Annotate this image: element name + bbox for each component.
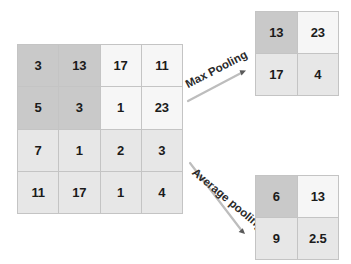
input-feature-map-cell: 17 (59, 172, 99, 213)
max-pool-output-cell: 13 (256, 12, 297, 53)
max-pool-output-cell: 23 (298, 12, 339, 53)
input-feature-map-cell: 23 (142, 87, 182, 128)
input-feature-map-cell: 4 (142, 172, 182, 213)
input-feature-map-cell: 1 (101, 87, 141, 128)
input-feature-map-cell: 5 (18, 87, 58, 128)
max-pool-output-cell: 17 (256, 54, 297, 95)
average-pool-output-cell: 2.5 (298, 218, 339, 259)
input-feature-map-cell: 11 (18, 172, 58, 213)
input-feature-map-cell: 1 (59, 130, 99, 171)
max-pool-output-cell: 4 (298, 54, 339, 95)
pooling-diagram: 3131711531237123111714 Max Pooling Avera… (0, 0, 351, 264)
input-feature-map-cell: 17 (101, 45, 141, 86)
input-feature-map-cell: 3 (142, 130, 182, 171)
max-pooling-label: Max Pooling (183, 48, 249, 90)
input-feature-map-cell: 13 (59, 45, 99, 86)
input-feature-map-cell: 3 (59, 87, 99, 128)
input-feature-map-cell: 3 (18, 45, 58, 86)
input-feature-map-cell: 11 (142, 45, 182, 86)
input-feature-map-cell: 1 (101, 172, 141, 213)
average-pool-output-cell: 6 (256, 176, 297, 217)
input-feature-map-matrix: 3131711531237123111714 (17, 44, 183, 214)
average-pool-output-matrix: 61392.5 (255, 175, 339, 260)
input-feature-map-cell: 2 (101, 130, 141, 171)
average-pool-output-cell: 9 (256, 218, 297, 259)
max-pool-output-matrix: 1323174 (255, 11, 339, 96)
input-feature-map-cell: 7 (18, 130, 58, 171)
average-pool-output-cell: 13 (298, 176, 339, 217)
